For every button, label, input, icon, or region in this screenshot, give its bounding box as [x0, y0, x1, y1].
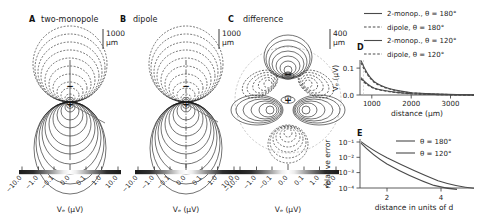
panel-d-ytick-1: 0.1 [343, 65, 354, 73]
panel-b-scalebar-unit: µm [222, 38, 234, 47]
panel-d-legend-label-2: 2-monop., θ = 120° [387, 37, 456, 45]
panel-d-y-label: Vₑ (µV) [331, 65, 340, 91]
panel-c-letter: C [228, 15, 234, 24]
panel-d-legend-label-3: dipole, θ = 120° [387, 51, 444, 59]
panel-d-xtick-2: 3000 [442, 100, 460, 108]
panel-a-source-positive: + [66, 99, 74, 109]
panel-b-colorbar-label: Vₑ (µV) [173, 205, 199, 214]
panel-c-title: difference [243, 15, 283, 24]
panel-a-source-negative: − [66, 81, 74, 91]
panel-e-legend-label-0: θ = 180° [420, 138, 451, 146]
panel-d-x-label: distance (µm) [391, 109, 443, 118]
panel-d-legend-label-1: dipole, θ = 180° [387, 24, 444, 32]
panel-e-ytick-1: 10⁻² [339, 154, 355, 162]
figure-canvas: A two-monopole − + 1000 µm [0, 0, 486, 219]
panel-e-ytick-2: 10⁻³ [339, 169, 355, 177]
panel-d-ytick-0: 0.0 [343, 92, 354, 100]
panel-b-letter: B [120, 15, 126, 24]
panel-d-xtick-0: 1000 [363, 100, 381, 108]
panel-a-letter: A [29, 15, 36, 24]
panel-e-xtick-0: 2 [385, 194, 389, 202]
panel-d-legend-label-0: 2-monop., θ = 180° [387, 10, 456, 18]
panel-c-scalebar-unit: µm [333, 38, 345, 47]
panel-a-scalebar-value: 1000 [106, 29, 125, 38]
panel-c-scalebar-value: 400 [333, 29, 348, 38]
panel-b-title: dipole [133, 15, 157, 24]
panel-c-colorbar-label: Vₑ (µV) [275, 205, 301, 214]
panel-e-xtick-1: 4 [439, 194, 444, 202]
panel-b-source-negative: − [182, 81, 190, 91]
panel-d-xtick-1: 2000 [402, 100, 420, 108]
panel-a-title: two-monopole [41, 15, 98, 24]
panel-c-source-positive: + [284, 95, 292, 105]
panel-e-ytick-3: 10⁻⁴ [339, 185, 355, 193]
panel-d-letter: D [357, 43, 364, 52]
panel-a-scalebar-unit: µm [106, 38, 118, 47]
panel-b-source-positive: + [182, 99, 190, 109]
panel-e-y-label: relative error [323, 139, 332, 189]
panel-e-letter: E [357, 129, 362, 138]
panel-b-scalebar-value: 1000 [222, 29, 241, 38]
panel-c-source-negative: − [284, 69, 292, 79]
panel-a-colorbar-label: Vₑ (µV) [57, 205, 83, 214]
panel-e-x-label: distance in units of d [375, 203, 454, 212]
panel-e-legend-label-1: θ = 120° [420, 150, 451, 158]
panel-e-ytick-0: 10⁻¹ [339, 139, 355, 147]
panel-c-scalebar: 400 µm [330, 29, 348, 49]
